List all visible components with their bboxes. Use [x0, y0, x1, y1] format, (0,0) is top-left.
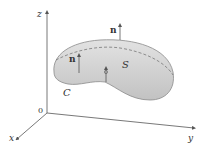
x-axis-label: x	[9, 133, 14, 143]
normal-label-left: n	[69, 54, 76, 64]
surface-label: S	[122, 59, 129, 70]
surface-s	[54, 40, 174, 100]
y-axis	[47, 113, 194, 128]
y-axis-label: y	[187, 133, 194, 143]
z-axis-label: z	[36, 9, 42, 19]
curve-label: C	[63, 87, 71, 98]
x-axis	[17, 113, 47, 139]
surface-diagram: z y x 0 S C n n	[0, 0, 202, 153]
origin-label: 0	[38, 106, 43, 115]
normal-label-top: n	[110, 25, 117, 35]
